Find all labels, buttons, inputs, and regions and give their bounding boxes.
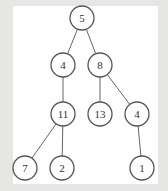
svg-text:11: 11 [58, 108, 69, 120]
tree-node-leaf: 1 [130, 156, 154, 180]
tree-node: 13 [88, 102, 112, 126]
edges [25, 18, 142, 168]
svg-text:4: 4 [60, 59, 66, 71]
svg-text:2: 2 [59, 162, 65, 174]
tree-node: 11 [51, 102, 75, 126]
tree-diagram: 5 4 8 11 13 4 7 2 1 [0, 0, 168, 191]
svg-text:4: 4 [134, 108, 140, 120]
tree-node-leaf: 7 [13, 156, 37, 180]
tree-node: 4 [125, 102, 149, 126]
svg-text:5: 5 [79, 12, 85, 24]
tree-node: 4 [51, 53, 75, 77]
svg-text:7: 7 [22, 162, 28, 174]
svg-text:13: 13 [95, 108, 107, 120]
tree-node-leaf: 2 [50, 156, 74, 180]
svg-text:8: 8 [97, 59, 103, 71]
tree-node: 8 [88, 53, 112, 77]
tree-node-root: 5 [70, 6, 94, 30]
svg-text:1: 1 [139, 162, 145, 174]
